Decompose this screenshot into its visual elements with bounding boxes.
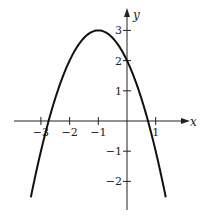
x-axis-arrow-icon [181, 118, 190, 124]
x-tick-label: −1 [90, 126, 106, 139]
tick-marks [41, 30, 156, 181]
y-axis-arrow-icon [124, 8, 130, 17]
y-axis: y [124, 8, 140, 210]
y-tick-label: −1 [106, 145, 122, 158]
y-tick-label: −2 [106, 175, 122, 188]
parabola-chart: x y −3−2−11321−1−2 [0, 0, 202, 224]
y-tick-label: 3 [115, 24, 122, 37]
y-tick-label: 2 [115, 55, 122, 68]
parabola-curve [31, 30, 166, 197]
x-axis-label: x [190, 115, 197, 129]
y-axis-label: y [132, 8, 140, 22]
y-tick-label: 1 [115, 85, 122, 98]
x-tick-label: −2 [61, 126, 77, 139]
